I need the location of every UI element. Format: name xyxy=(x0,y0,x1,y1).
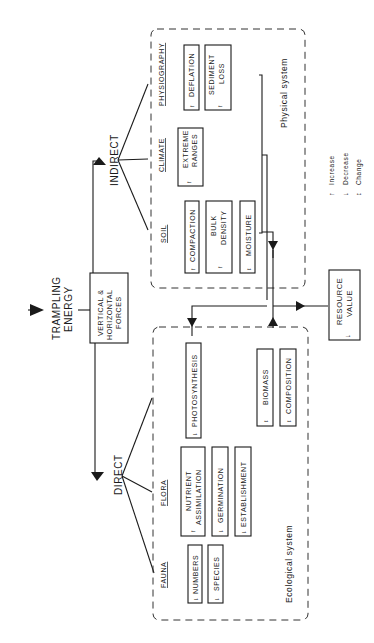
decrease-arrow-icon: ↓ xyxy=(192,597,199,601)
resource-value-line2: VALUE xyxy=(345,290,354,317)
increase-arrow-icon: ↑ xyxy=(189,267,196,271)
sediment-loss-line2: LOSS xyxy=(218,63,225,84)
legend-decrease-symbol: ↓ xyxy=(341,192,350,196)
physical-system-title: Physical system xyxy=(279,58,289,128)
composition-label: COMPOSITION xyxy=(285,358,292,414)
indirect-connector xyxy=(93,161,98,273)
nutrient-assimilation-line2: ASSIMILATION xyxy=(195,469,202,525)
numbers-box: NUMBERS ↓ xyxy=(188,545,202,603)
down-arrow-icon xyxy=(187,318,197,327)
compaction-label: COMPACTION xyxy=(189,209,196,262)
legend-increase-label: Increase xyxy=(328,155,335,185)
moisture-label: MOISTURE xyxy=(245,214,252,256)
flora-label: FLORA xyxy=(160,480,167,506)
increase-arrow-icon: ↑ xyxy=(188,104,195,108)
input-arrow-icon xyxy=(30,304,44,316)
legend-decrease-label: Decrease xyxy=(342,152,349,185)
species-label: SPECIES xyxy=(213,556,220,591)
bulk-density-box: BULK DENSITY ↑ xyxy=(206,201,232,273)
trampling-energy-input: TRAMPLING ENERGY xyxy=(28,276,74,340)
resource-value-line1: RESOURCE xyxy=(335,278,344,325)
decrease-arrow-icon: ↓ xyxy=(213,597,220,601)
direct-arrow-icon xyxy=(91,472,104,481)
germination-label: GERMINATION xyxy=(217,468,224,523)
establishment-box: ESTABLISHMENT ↓ xyxy=(235,447,251,536)
resource-value-box: RESOURCE VALUE ↓ xyxy=(329,270,360,340)
decrease-arrow-icon: ↓ xyxy=(343,334,352,338)
forces-line2: HORIZONTAL xyxy=(106,289,113,340)
decrease-arrow-icon: ↓ xyxy=(217,529,224,533)
indirect-to-climate-line xyxy=(118,159,148,160)
physical-to-flow-line xyxy=(262,155,267,300)
physical-effects-bracket xyxy=(259,75,262,233)
forces-line3: FORCES xyxy=(115,296,122,329)
right-arrow-icon xyxy=(296,301,305,311)
legend: ↑ Increase ↓ Decrease ↕ Change xyxy=(327,152,363,196)
biomass-label: BIOMASS xyxy=(262,369,269,405)
nutrient-assimilation-box: NUTRIENT ASSIMILATION ↑ xyxy=(181,447,205,536)
increase-arrow-icon: ↑ xyxy=(185,180,192,184)
legend-change-label: Change xyxy=(355,159,363,185)
moisture-box: MOISTURE ↕ xyxy=(240,201,255,273)
establishment-label: ESTABLISHMENT xyxy=(240,461,247,527)
trampling-impact-diagram: TRAMPLING ENERGY VERTICAL & HORIZONTAL F… xyxy=(0,0,374,643)
deflation-label: DEFLATION xyxy=(188,53,195,97)
germination-box: GERMINATION ↓ xyxy=(212,447,228,536)
physical-system: PHYSIOGRAPHY CLIMATE SOIL DEFLATION ↑ SE… xyxy=(151,29,305,300)
indirect-to-soil-line xyxy=(118,160,148,230)
legend-increase-symbol: ↑ xyxy=(327,192,336,196)
physiography-label: PHYSIOGRAPHY xyxy=(158,43,165,106)
change-arrow-icon: ↕ xyxy=(262,419,269,423)
increase-arrow-icon: ↑ xyxy=(216,104,223,108)
down-arrow-icon xyxy=(268,241,278,250)
extreme-ranges-line1: EXTREME xyxy=(182,130,189,168)
decrease-arrow-icon: ↓ xyxy=(240,530,247,534)
extreme-ranges-line2: RANGES xyxy=(191,134,198,167)
deflation-box: DEFLATION ↑ xyxy=(184,45,199,110)
trampling-label-line1: TRAMPLING xyxy=(51,276,62,340)
photosynthesis-label: PHOTOSYNTHESIS xyxy=(191,354,198,427)
change-arrow-icon: ↕ xyxy=(245,267,252,271)
flow-to-photosynthesis-line xyxy=(192,306,267,336)
legend-change-symbol: ↕ xyxy=(354,192,363,196)
forces-box: VERTICAL & HORIZONTAL FORCES xyxy=(90,273,128,343)
bulk-density-line1: BULK xyxy=(210,215,217,236)
soil-label: SOIL xyxy=(160,225,167,243)
extreme-ranges-box: EXTREME RANGES ↑ xyxy=(178,128,203,186)
up-arrow-icon xyxy=(268,317,278,326)
climate-label: CLIMATE xyxy=(158,138,165,172)
numbers-label: NUMBERS xyxy=(192,555,199,594)
bulk-density-line2: DENSITY xyxy=(220,210,227,245)
compaction-box: COMPACTION ↑ xyxy=(185,201,199,273)
nutrient-assimilation-line1: NUTRIENT xyxy=(185,471,192,511)
sediment-loss-box: SEDIMENT LOSS ↑ xyxy=(205,45,231,110)
composition-box: COMPOSITION ↕ xyxy=(280,349,296,426)
change-arrow-icon: ↕ xyxy=(285,419,292,423)
increase-arrow-icon: ↑ xyxy=(189,529,196,533)
direct-to-photosynthesis-line xyxy=(122,398,152,476)
trampling-label-line2: ENERGY xyxy=(63,286,74,332)
direct-connector xyxy=(95,343,100,476)
fauna-label: FAUNA xyxy=(160,562,167,588)
sediment-loss-line1: SEDIMENT xyxy=(208,54,215,95)
photosynthesis-box: PHOTOSYNTHESIS ↓ xyxy=(186,343,201,438)
increase-arrow-icon: ↑ xyxy=(216,265,223,269)
ecological-system: FLORA FAUNA PHOTOSYNTHESIS ↓ BIOMASS ↕ C… xyxy=(153,327,308,620)
ecological-system-title: Ecological system xyxy=(284,525,294,603)
indirect-to-physiography-line xyxy=(118,84,148,160)
forces-line1: VERTICAL & xyxy=(97,290,104,336)
biomass-box: BIOMASS ↕ xyxy=(257,349,273,426)
decrease-arrow-icon: ↓ xyxy=(191,432,198,436)
species-box: SPECIES ↓ xyxy=(208,545,223,603)
